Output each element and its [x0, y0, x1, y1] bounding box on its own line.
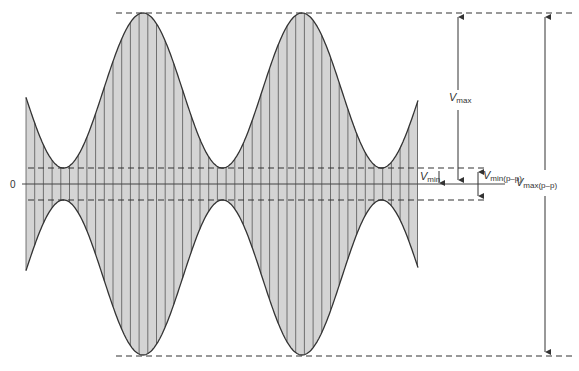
- vmax-label: Vmax: [449, 91, 471, 105]
- am-waveform-diagram: 0 Vmax Vmin Vmin(p–p) Vmax(p–p): [0, 0, 579, 371]
- vmax-pp-label: Vmax(p–p): [516, 176, 557, 190]
- zero-label: 0: [10, 179, 16, 190]
- vmin-label: Vmin: [420, 170, 440, 184]
